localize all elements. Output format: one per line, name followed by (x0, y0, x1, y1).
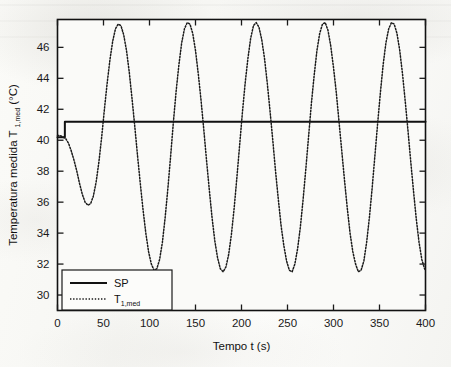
x-tick-label: 50 (97, 317, 110, 329)
x-tick-label: 300 (324, 317, 343, 329)
y-tick-label: 44 (37, 72, 50, 84)
y-tick-label: 38 (37, 165, 50, 177)
y-tick-label: 42 (37, 103, 50, 115)
x-tick-label: 150 (186, 317, 205, 329)
y-tick-label: 40 (37, 134, 50, 146)
y-axis-label: Temperatura medida T 1,med (°C) (7, 84, 21, 246)
legend-label-SP: SP (114, 277, 129, 289)
x-tick-label: 350 (370, 317, 389, 329)
chart-svg: 0501001502002503003504003032343638404244… (0, 0, 451, 367)
x-tick-label: 400 (416, 317, 435, 329)
x-tick-label: 250 (278, 317, 297, 329)
x-tick-label: 100 (140, 317, 159, 329)
x-tick-label: 200 (232, 317, 251, 329)
x-axis-label: Tempo t (s) (213, 340, 271, 352)
y-tick-label: 34 (37, 227, 50, 239)
y-tick-label: 36 (37, 196, 50, 208)
y-tick-label: 30 (37, 289, 50, 301)
chart-figure: 0501001502002503003504003032343638404244… (0, 0, 451, 367)
plot-area (58, 20, 426, 311)
y-tick-label: 32 (37, 258, 50, 270)
x-tick-label: 0 (54, 317, 60, 329)
y-tick-label: 46 (37, 41, 50, 53)
